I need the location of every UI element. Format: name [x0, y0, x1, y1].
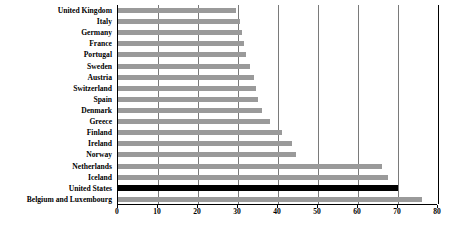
- bar-iceland[interactable]: [118, 175, 388, 180]
- bar-united-kingdom[interactable]: [118, 8, 236, 13]
- bar-sweden[interactable]: [118, 64, 250, 69]
- tick-mark-30: [237, 205, 238, 208]
- tick-label-50: 50: [313, 207, 321, 216]
- bar-row[interactable]: [118, 105, 438, 116]
- category-label-norway: Norway: [86, 149, 112, 160]
- category-label-germany: Germany: [81, 27, 112, 38]
- bar-row[interactable]: [118, 172, 438, 183]
- bar-italy[interactable]: [118, 19, 240, 24]
- bar-row[interactable]: [118, 127, 438, 138]
- bar-greece[interactable]: [118, 119, 270, 124]
- bar-row[interactable]: [118, 16, 438, 27]
- bar-row[interactable]: [118, 116, 438, 127]
- bar-germany[interactable]: [118, 30, 242, 35]
- category-label-united-states: United States: [69, 183, 112, 194]
- category-label-greece: Greece: [89, 116, 112, 127]
- category-label-denmark: Denmark: [81, 105, 112, 116]
- category-label-italy: Italy: [97, 16, 112, 27]
- bar-ireland[interactable]: [118, 141, 292, 146]
- tick-label-30: 30: [233, 207, 241, 216]
- tick-mark-80: [437, 205, 438, 208]
- category-label-iceland: Iceland: [88, 172, 112, 183]
- category-label-belgium-and-luxembourg: Belgium and Luxembourg: [27, 194, 112, 205]
- value-axis-labels: 01020304050607080: [0, 207, 452, 221]
- bar-row[interactable]: [118, 38, 438, 49]
- bar-france[interactable]: [118, 41, 244, 46]
- bar-row[interactable]: [118, 138, 438, 149]
- category-label-portugal: Portugal: [84, 49, 112, 60]
- bar-switzerland[interactable]: [118, 86, 256, 91]
- bar-united-states[interactable]: [118, 185, 398, 191]
- bar-row[interactable]: [118, 161, 438, 172]
- tick-mark-70: [397, 205, 398, 208]
- tick-mark-50: [317, 205, 318, 208]
- bar-netherlands[interactable]: [118, 164, 382, 169]
- plot-area: [117, 5, 437, 205]
- bar-portugal[interactable]: [118, 52, 246, 57]
- category-label-sweden: Sweden: [87, 61, 112, 72]
- bar-spain[interactable]: [118, 97, 258, 102]
- tick-label-20: 20: [193, 207, 201, 216]
- tick-mark-20: [197, 205, 198, 208]
- bar-finland[interactable]: [118, 130, 282, 135]
- category-axis-labels: United KingdomItalyGermanyFrancePortugal…: [0, 5, 115, 205]
- bar-row[interactable]: [118, 94, 438, 105]
- category-label-switzerland: Switzerland: [73, 83, 112, 94]
- tick-label-60: 60: [353, 207, 361, 216]
- tick-label-70: 70: [393, 207, 401, 216]
- bar-row[interactable]: [118, 83, 438, 94]
- bar-row[interactable]: [118, 49, 438, 60]
- tick-mark-10: [157, 205, 158, 208]
- category-label-spain: Spain: [93, 94, 112, 105]
- tick-label-40: 40: [273, 207, 281, 216]
- tick-label-80: 80: [433, 207, 441, 216]
- bar-row[interactable]: [118, 27, 438, 38]
- category-label-austria: Austria: [88, 72, 112, 83]
- bar-row[interactable]: [118, 61, 438, 72]
- category-label-finland: Finland: [87, 127, 112, 138]
- category-label-united-kingdom: United Kingdom: [58, 5, 112, 16]
- tick-mark-60: [357, 205, 358, 208]
- bar-row[interactable]: [118, 72, 438, 83]
- bar-series: [118, 5, 437, 204]
- bar-row[interactable]: [118, 149, 438, 160]
- bar-row[interactable]: [118, 194, 438, 205]
- tick-label-0: 0: [115, 207, 119, 216]
- bar-denmark[interactable]: [118, 108, 262, 113]
- bar-row[interactable]: [118, 5, 438, 16]
- gridline-80: [438, 5, 439, 204]
- category-label-netherlands: Netherlands: [72, 161, 112, 172]
- category-label-france: France: [89, 38, 112, 49]
- bar-row[interactable]: [118, 183, 438, 194]
- category-label-ireland: Ireland: [88, 138, 112, 149]
- bar-norway[interactable]: [118, 152, 296, 157]
- tick-mark-40: [277, 205, 278, 208]
- bar-chart: United KingdomItalyGermanyFrancePortugal…: [0, 0, 452, 231]
- bar-belgium-and-luxembourg[interactable]: [118, 197, 422, 202]
- tick-mark-0: [117, 205, 118, 208]
- bar-austria[interactable]: [118, 75, 254, 80]
- tick-label-10: 10: [153, 207, 161, 216]
